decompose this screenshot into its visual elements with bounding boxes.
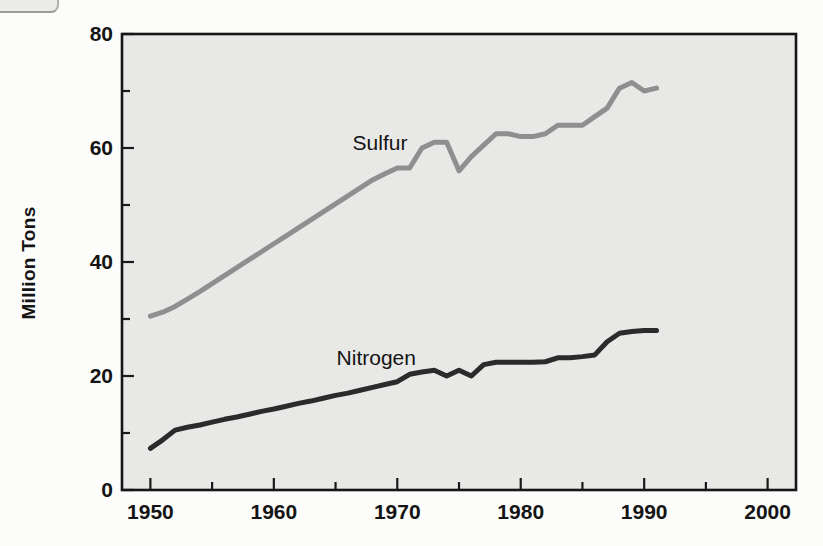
x-tick-label-1950: 1950 bbox=[127, 500, 174, 523]
y-tick-label-20: 20 bbox=[90, 364, 113, 387]
y-tick-label-60: 60 bbox=[90, 136, 113, 159]
x-tick-label-1960: 1960 bbox=[250, 500, 297, 523]
x-tick-label-1980: 1980 bbox=[497, 500, 544, 523]
y-tick-label-40: 40 bbox=[90, 250, 113, 273]
sulfur-series-label: Sulfur bbox=[353, 131, 408, 154]
x-tick-label-1970: 1970 bbox=[374, 500, 421, 523]
x-tick-label-1990: 1990 bbox=[621, 500, 668, 523]
x-tick-label-2000: 2000 bbox=[744, 500, 791, 523]
figure: Million Tons 195019601970198019902000020… bbox=[0, 0, 823, 546]
nitrogen-series-label: Nitrogen bbox=[337, 346, 416, 369]
emissions-line-chart: 195019601970198019902000020406080SulfurN… bbox=[0, 0, 823, 546]
y-tick-label-0: 0 bbox=[101, 478, 113, 501]
y-tick-label-80: 80 bbox=[90, 22, 113, 45]
